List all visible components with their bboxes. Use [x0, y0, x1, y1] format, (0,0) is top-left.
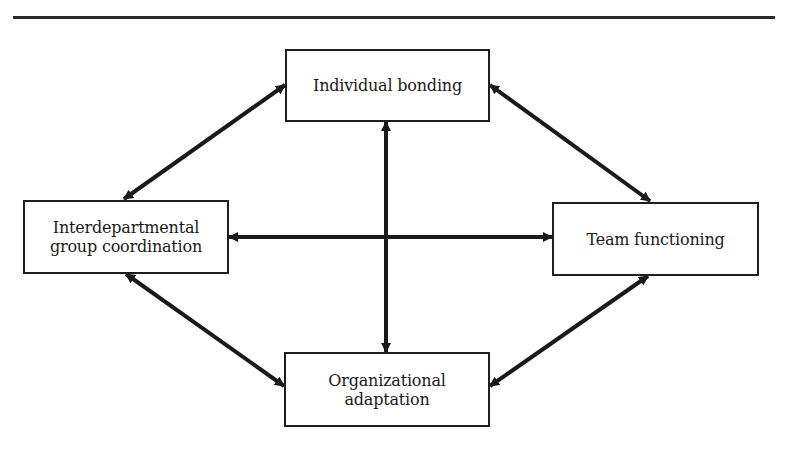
node-label: Team functioning [586, 230, 724, 249]
node-organizational-adaptation: Organizational adaptation [284, 352, 490, 427]
node-label-line-2: adaptation [328, 390, 445, 409]
node-label: Individual bonding [313, 76, 462, 95]
arrow-bonding-team [490, 85, 650, 201]
arrow-team-adaptation [490, 276, 648, 386]
node-label-line-2: group coordination [50, 237, 202, 256]
node-label-line-1: Interdepartmental [50, 218, 202, 237]
arrow-coordination-bonding [124, 85, 285, 199]
node-team-functioning: Team functioning [552, 202, 759, 276]
node-label-line-1: Organizational [328, 371, 445, 390]
arrow-coordination-adaptation [126, 274, 284, 386]
node-interdepartmental-group-coordination: Interdepartmental group coordination [23, 200, 229, 274]
node-individual-bonding: Individual bonding [285, 49, 490, 122]
